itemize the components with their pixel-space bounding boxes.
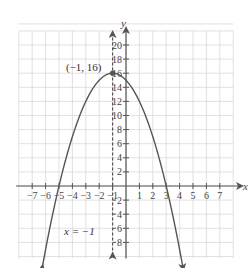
y-axis-label: y <box>120 17 126 29</box>
x-tick-label: 7 <box>217 190 222 201</box>
y-tick-label: 2 <box>117 166 122 177</box>
vertex-point <box>110 71 115 76</box>
x-tick-label: 6 <box>204 190 209 201</box>
y-tick-label: 20 <box>112 40 122 51</box>
y-tick-label: 6 <box>117 223 122 234</box>
y-tick-label: 8 <box>117 237 122 248</box>
x-axis-label: x <box>242 180 248 192</box>
y-tick-label: 2 <box>117 195 122 206</box>
y-tick-label: 12 <box>112 96 122 107</box>
x-tick-label: −3 <box>80 190 91 201</box>
vertex-label: (−1, 16) <box>66 61 102 74</box>
y-tick-label: 14 <box>112 82 122 93</box>
x-tick-label: 4 <box>177 190 182 201</box>
y-tick-label: 8 <box>117 124 122 135</box>
y-tick-label: 4 <box>117 152 122 163</box>
x-tick-label: −6 <box>40 190 51 201</box>
parabola-chart: xy −7−6−5−4−3−2−112345678642246810121416… <box>0 0 251 268</box>
x-tick-label: −7 <box>27 190 38 201</box>
symmetry-label: x = −1 <box>63 225 95 237</box>
x-tick-label: −2 <box>94 190 105 201</box>
y-tick-label: 18 <box>112 54 122 65</box>
x-tick-label: 1 <box>137 190 142 201</box>
x-tick-label: 5 <box>191 190 196 201</box>
y-tick-label: 4 <box>117 209 122 220</box>
x-tick-label: 2 <box>150 190 155 201</box>
y-tick-label: 10 <box>112 110 122 121</box>
y-tick-label: 6 <box>117 138 122 149</box>
x-tick-label: −4 <box>67 190 78 201</box>
